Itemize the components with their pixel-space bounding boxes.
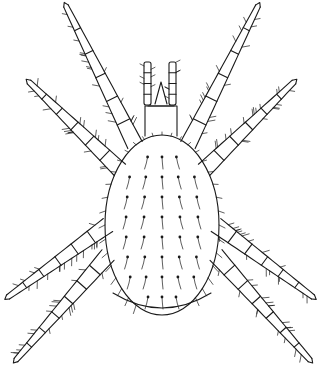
legs: [5, 2, 316, 363]
mite-illustration: [0, 0, 324, 367]
mite-drawing: [0, 0, 324, 367]
leg-III-left: [5, 219, 113, 300]
leg-I-right: [181, 2, 260, 148]
leg-III-right: [211, 219, 316, 303]
idiosoma-body: [99, 132, 225, 315]
gnathosoma: [140, 60, 180, 136]
leg-IV-left: [11, 250, 114, 363]
leg-II-right: [198, 79, 296, 176]
leg-IV-right: [210, 250, 313, 363]
palp-right: [165, 60, 180, 105]
palp-left: [140, 62, 155, 105]
leg-II-left: [26, 79, 125, 176]
